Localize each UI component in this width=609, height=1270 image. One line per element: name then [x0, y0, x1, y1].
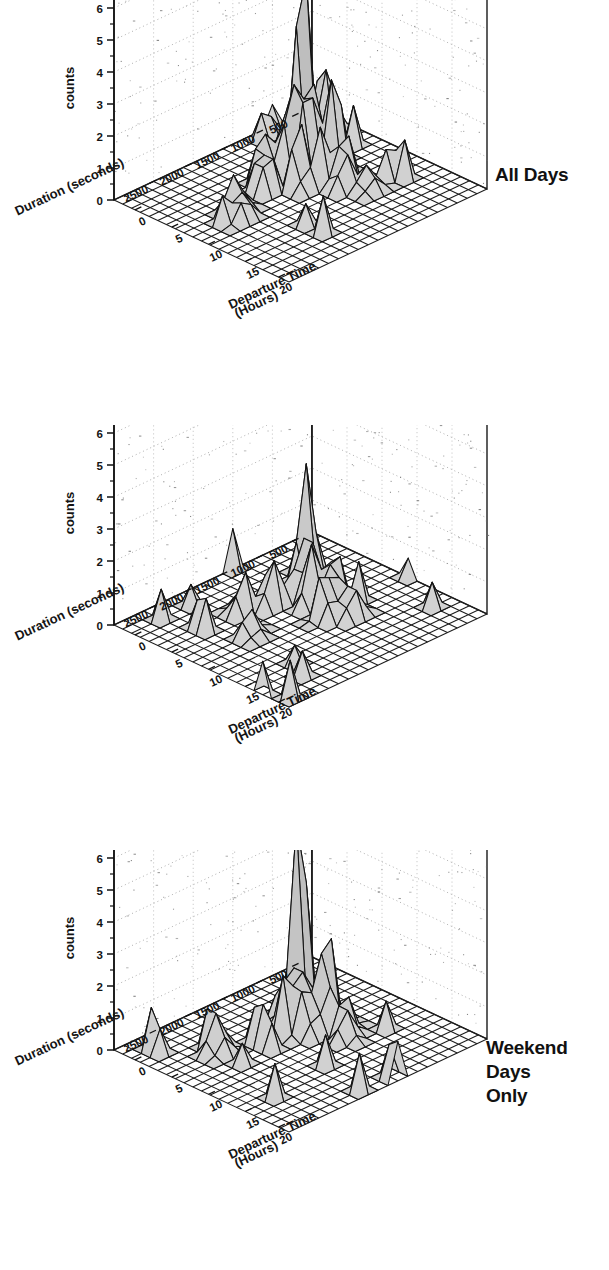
panel-title-all-days: All Days: [495, 163, 568, 187]
scan-speckle: [393, 559, 394, 560]
scan-speckle: [215, 536, 217, 537]
scan-speckle: [396, 879, 398, 880]
scan-speckle: [115, 542, 116, 543]
scan-speckle: [299, 500, 300, 501]
departure-axis-tick: [172, 649, 178, 652]
scan-speckle: [480, 918, 482, 919]
scan-speckle: [379, 120, 380, 121]
scan-speckle: [368, 456, 370, 457]
scan-speckle: [262, 30, 263, 31]
scan-speckle: [138, 123, 139, 124]
scan-speckle: [407, 982, 409, 983]
scan-speckle: [192, 62, 193, 63]
scan-speckle: [305, 867, 306, 868]
scan-speckle: [252, 101, 254, 102]
scan-speckle: [366, 89, 368, 90]
scan-speckle: [479, 132, 480, 133]
scan-speckle: [381, 869, 382, 870]
scan-speckle: [459, 90, 460, 91]
z-tick-label: 3: [97, 524, 103, 536]
scan-speckle: [362, 480, 364, 481]
scan-speckle: [349, 68, 350, 69]
scan-speckle: [143, 1007, 144, 1008]
scan-speckle: [187, 437, 189, 438]
scan-speckle: [328, 883, 329, 884]
scan-speckle: [470, 448, 472, 449]
scan-speckle: [117, 570, 119, 571]
scan-speckle: [440, 425, 442, 426]
scan-speckle: [377, 981, 378, 982]
scan-speckle: [118, 523, 120, 524]
scan-speckle: [443, 455, 444, 456]
scan-speckle: [480, 1006, 481, 1007]
scan-speckle: [118, 3, 119, 4]
scan-speckle: [136, 478, 137, 479]
scan-speckle: [185, 59, 186, 60]
scan-speckle: [116, 141, 117, 142]
scan-speckle: [139, 137, 140, 138]
scan-speckle: [329, 933, 331, 934]
scan-speckle: [160, 10, 162, 11]
scan-speckle: [175, 501, 176, 502]
scan-speckle: [468, 963, 469, 964]
scan-speckle: [225, 10, 226, 11]
scan-speckle: [339, 485, 340, 486]
scan-speckle: [264, 57, 265, 58]
scan-speckle: [446, 98, 448, 99]
scan-speckle: [463, 124, 464, 125]
scan-speckle: [155, 520, 157, 521]
scan-speckle: [172, 508, 173, 509]
scan-speckle: [354, 899, 355, 900]
scan-speckle: [157, 40, 159, 41]
scan-speckle: [487, 991, 488, 992]
scan-speckle: [424, 98, 426, 99]
scan-speckle: [187, 876, 188, 877]
scan-speckle: [417, 504, 418, 505]
scan-speckle: [378, 92, 380, 93]
scan-speckle: [236, 454, 237, 455]
scan-speckle: [479, 509, 481, 510]
scan-speckle: [455, 903, 456, 904]
scan-speckle: [369, 900, 370, 901]
scan-speckle: [128, 861, 130, 862]
scan-speckle: [170, 866, 171, 867]
scan-speckle: [458, 493, 459, 494]
z-tick-label: 6: [97, 853, 103, 865]
scan-speckle: [224, 137, 225, 138]
scan-speckle: [121, 61, 122, 62]
scan-speckle: [449, 78, 451, 79]
scan-speckle: [249, 88, 250, 89]
departure-axis-tick: [245, 684, 251, 687]
scan-speckle: [123, 498, 124, 499]
scan-speckle: [234, 25, 235, 26]
scan-speckle: [234, 897, 236, 898]
scan-speckle: [449, 551, 450, 552]
scan-speckle: [448, 952, 449, 953]
scan-speckle: [401, 974, 402, 975]
scan-speckle: [133, 996, 135, 997]
scan-speckle: [246, 0, 247, 1]
departure-axis-tick: [245, 259, 251, 262]
scan-speckle: [429, 947, 430, 948]
scan-speckle: [470, 441, 471, 442]
z-tick-label: 4: [97, 67, 104, 79]
scan-speckle: [452, 491, 453, 492]
scan-speckle: [300, 445, 302, 446]
scan-speckle: [348, 956, 349, 957]
scan-speckle: [206, 882, 207, 883]
scan-speckle: [273, 888, 274, 889]
departure-axis-tick: [135, 207, 141, 210]
scan-speckle: [354, 440, 356, 441]
scan-speckle: [244, 873, 245, 874]
scan-speckle: [374, 432, 376, 433]
scan-speckle: [398, 491, 399, 492]
z-tick-label: 5: [97, 460, 104, 472]
scan-speckle: [467, 1014, 468, 1015]
scan-speckle: [366, 918, 368, 919]
scan-speckle: [473, 965, 475, 966]
scan-speckle: [466, 8, 467, 9]
scan-speckle: [474, 467, 476, 468]
scan-speckle: [392, 454, 393, 455]
scan-speckle: [399, 37, 400, 38]
scan-speckle: [269, 491, 271, 492]
